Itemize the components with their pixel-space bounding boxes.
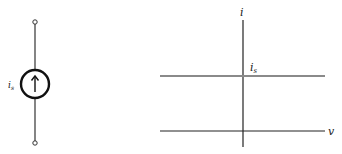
- top-terminal-icon: [33, 20, 37, 24]
- i-axis-label: i: [240, 6, 244, 19]
- current-source-symbol: [21, 20, 49, 145]
- is-curve-label: is: [250, 61, 258, 75]
- v-axis-label: v: [328, 125, 335, 138]
- bottom-terminal-icon: [33, 141, 37, 145]
- iv-graph: [160, 20, 325, 147]
- figure: is i v is: [0, 0, 342, 154]
- source-label: is: [8, 80, 14, 91]
